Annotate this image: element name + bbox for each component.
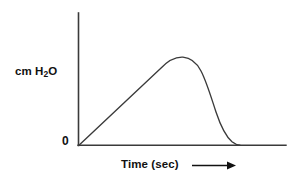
- x-axis-direction-arrow: [192, 162, 236, 170]
- x-axis-label: Time (sec): [121, 158, 179, 170]
- y-axis-label-tail: O: [48, 65, 57, 77]
- arrow-head: [227, 162, 236, 170]
- pressure-waveform-curve: [80, 57, 241, 145]
- y-axis-label: cm H2O: [15, 65, 57, 77]
- origin-tick-label: 0: [62, 134, 69, 148]
- y-axis-label-text: cm H: [15, 65, 44, 77]
- chart-plot-area: [0, 0, 294, 182]
- chart-figure: cm H2O Time (sec) 0: [0, 0, 294, 182]
- y-axis-label-subscript: 2: [44, 69, 49, 79]
